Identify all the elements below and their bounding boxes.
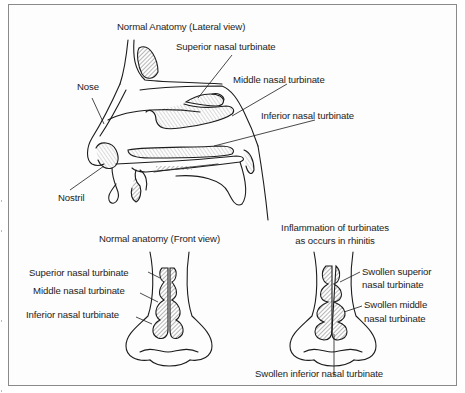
margin-mark [1,230,2,232]
front-inflamed-title-line1: Inflammation of turbinates [270,222,400,233]
front-normal-title: Normal anatomy (Front view) [99,233,220,244]
lateral-label-nostril: Nostril [58,192,84,203]
front-inflamed-title-line2: as occurs in rhinitis [270,235,400,246]
lateral-view-title: Normal Anatomy (Lateral view) [117,21,245,32]
margin-mark [1,200,2,202]
front-inflamed-label-superior-1: Swollen superior [362,266,431,277]
front-inflamed-label-inferior: Swollen inferior nasal turbinate [255,368,383,379]
lateral-label-superior-turbinate: Superior nasal turbinate [176,41,275,52]
front-inflamed-label-middle-2: nasal turbinate [364,313,425,324]
front-inflamed-label-superior-2: nasal turbinate [362,279,423,290]
lateral-label-inferior-turbinate: Inferior nasal turbinate [261,110,354,121]
lateral-label-middle-turbinate: Middle nasal turbinate [233,74,325,85]
front-view-normal-drawing [126,252,212,366]
lateral-label-nose: Nose [77,81,99,92]
margin-mark [1,390,2,392]
front-normal-label-superior: Superior nasal turbinate [29,267,128,278]
margin-mark [1,320,2,322]
lateral-view-drawing [88,40,269,220]
front-inflamed-label-middle-1: Swollen middle [364,299,427,310]
front-normal-label-inferior: Inferior nasal turbinate [26,309,119,320]
front-normal-label-middle: Middle nasal turbinate [33,285,125,296]
